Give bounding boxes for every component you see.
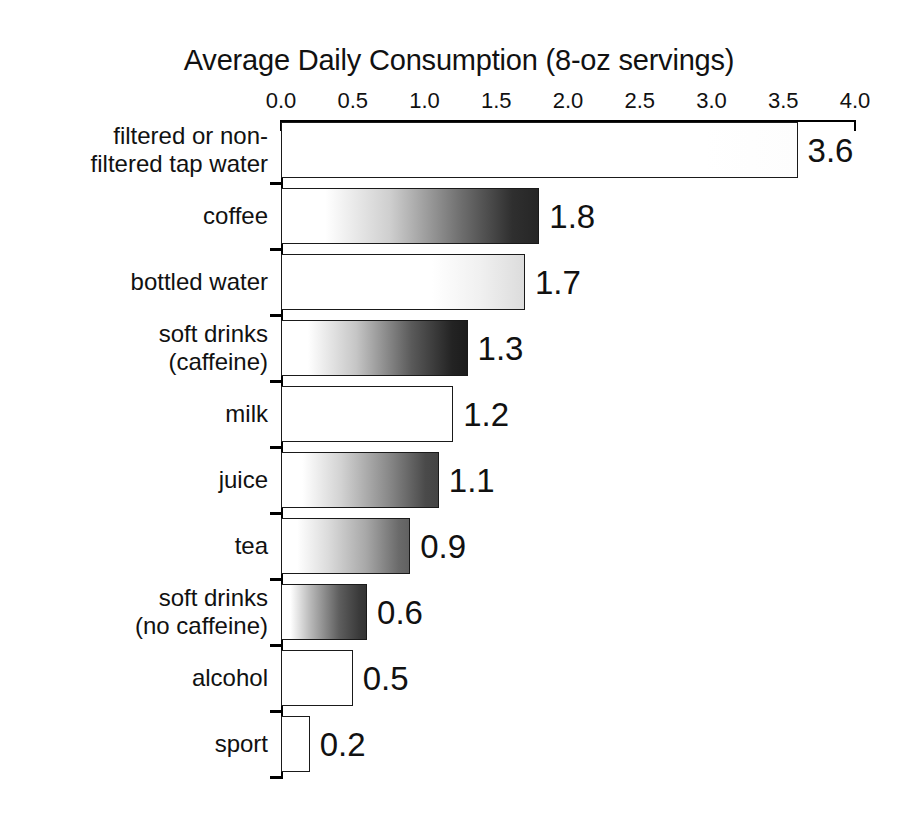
y-axis-category-label: soft drinks (caffeine)	[0, 320, 268, 376]
chart-figure: Average Daily Consumption (8-oz servings…	[0, 0, 921, 824]
x-axis-tick-label: 0.0	[266, 88, 297, 114]
y-axis-category-label: filtered or non- filtered tap water	[0, 122, 268, 178]
bar-row[interactable]: 1.3	[281, 320, 855, 376]
x-axis-tick-label: 2.0	[553, 88, 584, 114]
y-axis-category-label: soft drinks (no caffeine)	[0, 584, 268, 640]
bar[interactable]	[281, 584, 367, 640]
bar[interactable]	[281, 452, 439, 508]
bar-value-label: 1.1	[449, 464, 495, 497]
bar-value-label: 0.2	[320, 728, 366, 761]
y-axis-category-label: bottled water	[0, 268, 268, 296]
y-axis-tick-mark	[270, 248, 283, 251]
bar-row[interactable]: 0.2	[281, 716, 855, 772]
bar-value-label: 0.5	[363, 662, 409, 695]
x-axis-tick-label: 3.0	[696, 88, 727, 114]
y-axis-tick-mark	[270, 710, 283, 713]
bar[interactable]	[281, 518, 410, 574]
y-axis-tick-mark	[270, 644, 283, 647]
y-axis-category-label: alcohol	[0, 664, 268, 692]
y-axis-tick-mark	[270, 182, 283, 185]
x-axis-tick-label: 2.5	[624, 88, 655, 114]
y-axis-category-label: tea	[0, 532, 268, 560]
bar-row[interactable]: 0.6	[281, 584, 855, 640]
bar-value-label: 1.3	[478, 332, 524, 365]
bar-value-label: 0.9	[420, 530, 466, 563]
y-axis-tick-mark	[270, 446, 283, 449]
bar-row[interactable]: 1.7	[281, 254, 855, 310]
y-axis-category-label: milk	[0, 400, 268, 428]
y-axis-end-tick	[270, 776, 283, 779]
y-axis-category-label: coffee	[0, 202, 268, 230]
chart-title: Average Daily Consumption (8-oz servings…	[0, 44, 918, 77]
x-axis-tick-label: 1.5	[481, 88, 512, 114]
bar[interactable]	[281, 650, 353, 706]
bar[interactable]	[281, 188, 539, 244]
bar-row[interactable]: 1.8	[281, 188, 855, 244]
x-axis-tick-label: 4.0	[840, 88, 871, 114]
bar[interactable]	[281, 122, 798, 178]
y-axis-tick-mark	[270, 380, 283, 383]
y-axis-tick-mark	[270, 314, 283, 317]
bar-row[interactable]: 3.6	[281, 122, 855, 178]
bar-row[interactable]: 0.9	[281, 518, 855, 574]
bar-value-label: 1.7	[535, 266, 581, 299]
bar[interactable]	[281, 716, 310, 772]
x-axis-tick-label: 0.5	[337, 88, 368, 114]
y-axis-tick-mark	[270, 512, 283, 515]
y-axis-category-label: sport	[0, 730, 268, 758]
bar-row[interactable]: 0.5	[281, 650, 855, 706]
bar[interactable]	[281, 320, 468, 376]
bar-value-label: 0.6	[377, 596, 423, 629]
bar-value-label: 3.6	[808, 134, 854, 167]
bar-value-label: 1.8	[549, 200, 595, 233]
bar-value-label: 1.2	[463, 398, 509, 431]
y-axis-category-label: juice	[0, 466, 268, 494]
x-axis-tick-label: 1.0	[409, 88, 440, 114]
x-axis-tick-label: 3.5	[768, 88, 799, 114]
bar[interactable]	[281, 386, 453, 442]
y-axis-tick-mark	[270, 578, 283, 581]
bar[interactable]	[281, 254, 525, 310]
y-axis-category-labels: filtered or non- filtered tap watercoffe…	[0, 120, 268, 780]
plot-area: 3.61.81.71.31.21.10.90.60.50.2	[281, 120, 855, 780]
bar-row[interactable]: 1.1	[281, 452, 855, 508]
bar-row[interactable]: 1.2	[281, 386, 855, 442]
x-axis-tick-labels: 0.00.51.01.52.02.53.03.54.0	[0, 88, 921, 114]
